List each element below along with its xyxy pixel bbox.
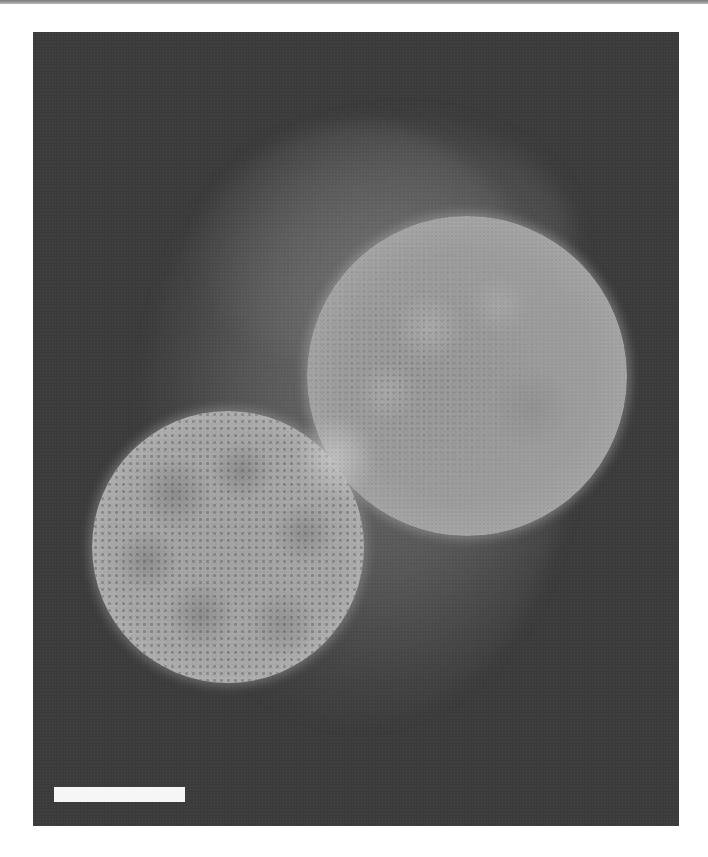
micrograph-frame	[33, 32, 679, 826]
sphere-contact-glow	[295, 412, 375, 502]
scale-bar	[54, 787, 185, 802]
top-rule-divider	[0, 0, 708, 4]
